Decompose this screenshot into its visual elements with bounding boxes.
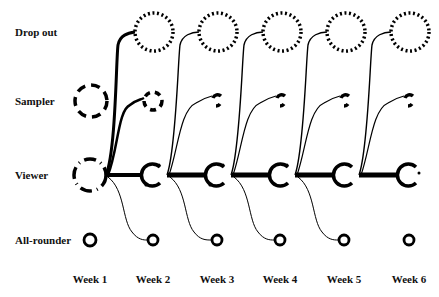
week-label-1: Week 1 (73, 273, 108, 285)
viewer-node-week5 (333, 164, 352, 186)
viewer-node-week4 (269, 164, 288, 186)
allrounder-node-week6 (404, 235, 414, 245)
sampler-nodes (75, 85, 413, 117)
allrounder-nodes (84, 234, 414, 246)
viewer-node-week2 (141, 164, 160, 186)
viewer-to-dropout-flows (106, 32, 391, 175)
viewer-node-week3 (205, 164, 224, 186)
week-label-3: Week 3 (200, 273, 235, 285)
row-label-sampler: Sampler (15, 95, 55, 107)
viewer-node-week6 (397, 164, 416, 186)
allrounder-node-week1 (84, 234, 96, 246)
sampler-node-week4 (277, 95, 285, 106)
sampler-node-week2 (144, 92, 162, 110)
dropout-node-week4 (263, 13, 301, 51)
sampler-node-week1 (75, 85, 107, 117)
row-label-viewer: Viewer (15, 169, 48, 181)
sampler-node-week6 (405, 95, 413, 106)
viewer-to-allrounder-flows (108, 177, 338, 240)
viewer-node-week1 (74, 159, 106, 191)
row-label-dropout: Drop out (15, 26, 57, 38)
dropout-node-week2 (135, 13, 173, 51)
allrounder-node-week3 (212, 235, 222, 245)
dropout-node-week6 (391, 13, 429, 51)
week-label-2: Week 2 (136, 273, 171, 285)
allrounder-node-week2 (148, 235, 158, 245)
row-label-allrounder: All-rounder (15, 234, 71, 246)
week-label-6: Week 6 (392, 273, 427, 285)
state-transition-diagram (0, 0, 439, 297)
dropout-node-week5 (327, 13, 365, 51)
dropout-node-week3 (199, 13, 237, 51)
allrounder-node-week4 (275, 235, 285, 245)
sampler-node-week5 (341, 95, 349, 106)
week-label-4: Week 4 (263, 273, 298, 285)
allrounder-node-week5 (339, 235, 349, 245)
sampler-node-week3 (213, 95, 221, 106)
week-label-5: Week 5 (327, 273, 362, 285)
